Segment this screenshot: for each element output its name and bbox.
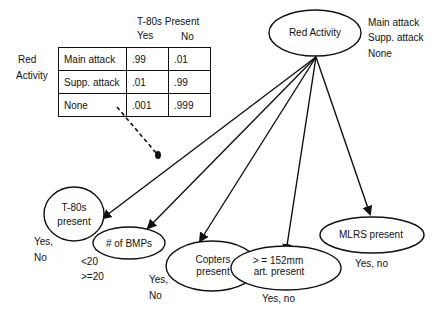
cpt-no: .01 bbox=[169, 48, 211, 71]
cpt-column-header: T-80s Present bbox=[137, 16, 199, 28]
cpt-table: Main attack .99 .01 Supp. attack .01 .99… bbox=[58, 47, 211, 117]
edge-to-mlrs bbox=[316, 57, 370, 214]
cpt-yes: .01 bbox=[127, 71, 169, 94]
cpt-parent-label-line2: Activity bbox=[16, 70, 48, 82]
cpt-col-yes: Yes bbox=[137, 30, 153, 42]
cpt-row: Main attack .99 .01 bbox=[59, 48, 211, 71]
cpt-no: .999 bbox=[169, 94, 211, 117]
cpt-state: None bbox=[59, 94, 127, 117]
cpt-row: Supp. attack .01 .99 bbox=[59, 71, 211, 94]
node-states-copters-line1: Yes, bbox=[149, 274, 168, 286]
node-states-copters-line2: No bbox=[149, 290, 162, 302]
node-label-copters-line2: present bbox=[196, 266, 229, 278]
node-label-t80s-line1: T-80s bbox=[61, 202, 86, 214]
root-state: None bbox=[368, 48, 392, 60]
node-label-bmps: # of BMPs bbox=[106, 238, 152, 250]
cpt-anchor-dot bbox=[155, 151, 161, 159]
cpt-state: Main attack bbox=[59, 48, 127, 71]
cpt-parent-label-line1: Red bbox=[18, 54, 36, 66]
cpt-row: None .001 .999 bbox=[59, 94, 211, 117]
root-state: Main attack bbox=[368, 17, 419, 29]
node-states-artillery: Yes, no bbox=[262, 293, 295, 305]
root-state: Supp. attack bbox=[368, 32, 424, 44]
node-label-mlrs: MLRS present bbox=[339, 229, 403, 241]
cpt-state: Supp. attack bbox=[59, 71, 127, 94]
cpt-yes: .001 bbox=[127, 94, 169, 117]
node-states-bmps-line2: >=20 bbox=[81, 271, 104, 283]
edge-to-copters bbox=[200, 57, 316, 241]
node-states-mlrs: Yes, no bbox=[355, 258, 388, 270]
node-label-t80s-line2: present bbox=[57, 216, 90, 228]
cpt-yes: .99 bbox=[127, 48, 169, 71]
node-states-t80s-line2: No bbox=[34, 252, 47, 264]
cpt-no: .99 bbox=[169, 71, 211, 94]
node-label-copters-line1: Copters bbox=[195, 254, 230, 266]
node-t80s-present[interactable] bbox=[44, 187, 104, 241]
edge-to-artillery bbox=[286, 57, 316, 252]
node-label-red-activity: Red Activity bbox=[289, 27, 341, 39]
node-states-bmps-line1: <20 bbox=[81, 256, 98, 268]
node-label-artillery-line2: art. present bbox=[254, 266, 305, 278]
cpt-col-no: No bbox=[181, 31, 194, 43]
node-states-t80s-line1: Yes, bbox=[34, 236, 53, 248]
